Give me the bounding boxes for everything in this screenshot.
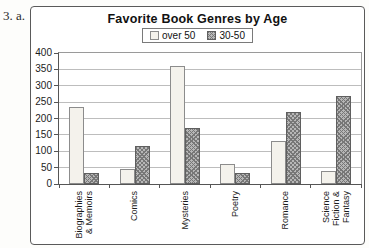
bar-30-50-4 <box>286 112 301 184</box>
y-axis-label-100: 100 <box>26 146 52 156</box>
y-axis-tick-0 <box>54 184 58 185</box>
plot-area: 050100150200250300350400Biographies & Me… <box>58 52 362 185</box>
legend-swatch-30-50 <box>207 31 216 40</box>
bar-over-50-3 <box>220 164 235 184</box>
y-axis-label-300: 300 <box>26 81 52 91</box>
legend-label-over-50: over 50 <box>162 30 195 41</box>
x-category-label-slot: Romance <box>260 188 310 244</box>
legend-item-over-50: over 50 <box>150 30 195 41</box>
gridline-150 <box>59 134 361 135</box>
y-axis-label-50: 50 <box>26 163 52 173</box>
gridline-100 <box>59 151 361 152</box>
y-axis-tick-100 <box>54 151 58 152</box>
bar-30-50-1 <box>135 146 150 184</box>
chart-legend: over 50 30-50 <box>142 28 253 43</box>
y-axis-label-200: 200 <box>26 114 52 124</box>
legend-item-30-50: 30-50 <box>207 30 245 41</box>
x-category-label: Poetry <box>230 191 240 241</box>
bar-30-50-2 <box>185 128 200 184</box>
x-category-label: Science Fiction & Fantasy <box>321 191 351 241</box>
y-axis-tick-350 <box>54 69 58 70</box>
gridline-200 <box>59 118 361 119</box>
bar-30-50-3 <box>235 173 250 184</box>
bar-30-50-5 <box>336 96 351 184</box>
bar-over-50-4 <box>271 141 286 184</box>
y-axis-tick-250 <box>54 102 58 103</box>
y-axis-tick-400 <box>54 53 58 54</box>
gridline-300 <box>59 85 361 86</box>
gridline-250 <box>59 102 361 103</box>
bar-over-50-1 <box>120 169 135 184</box>
bar-over-50-5 <box>321 171 336 184</box>
y-axis-tick-300 <box>54 85 58 86</box>
bar-over-50-0 <box>69 107 84 184</box>
x-category-label: Comics <box>129 191 139 241</box>
gridline-50 <box>59 167 361 168</box>
x-category-label-slot: Comics <box>109 188 159 244</box>
x-category-label-slot: Science Fiction & Fantasy <box>311 188 361 244</box>
x-category-label: Biographies & Memoirs <box>74 191 94 241</box>
bar-over-50-2 <box>170 66 185 184</box>
x-category-label-slot: Biographies & Memoirs <box>59 188 109 244</box>
problem-number-label: 3. a. <box>3 8 25 24</box>
y-axis-label-400: 400 <box>26 48 52 58</box>
x-category-label-slot: Poetry <box>210 188 260 244</box>
legend-swatch-over-50 <box>150 31 159 40</box>
bar-30-50-0 <box>84 173 99 184</box>
y-axis-tick-200 <box>54 118 58 119</box>
y-axis-label-350: 350 <box>26 64 52 74</box>
y-axis-tick-50 <box>54 167 58 168</box>
y-axis-tick-150 <box>54 134 58 135</box>
x-category-label: Mysteries <box>180 191 190 241</box>
chart-title: Favorite Book Genres by Age <box>31 12 364 26</box>
legend-label-30-50: 30-50 <box>219 30 245 41</box>
x-category-label: Romance <box>280 191 290 241</box>
y-axis-label-0: 0 <box>26 179 52 189</box>
gridline-350 <box>59 69 361 70</box>
x-category-label-slot: Mysteries <box>160 188 210 244</box>
chart-frame: Favorite Book Genres by Age over 50 30-5… <box>30 6 365 245</box>
y-axis-label-150: 150 <box>26 130 52 140</box>
y-axis-label-250: 250 <box>26 97 52 107</box>
